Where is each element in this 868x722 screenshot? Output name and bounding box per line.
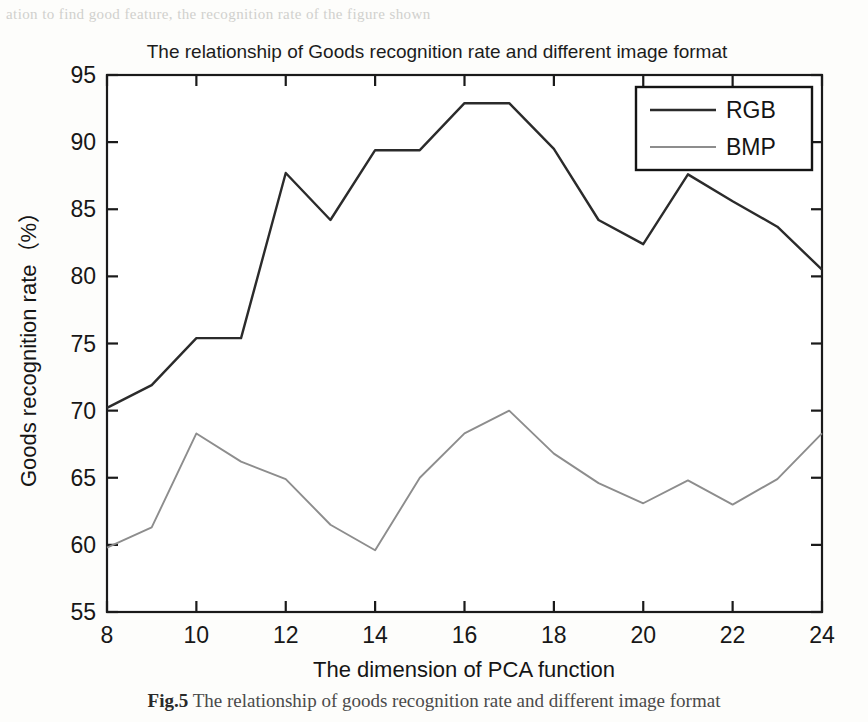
figure-caption-label: Fig.5 bbox=[148, 690, 189, 711]
x-axis-label: The dimension of PCA function bbox=[313, 657, 615, 682]
x-tick-label: 14 bbox=[362, 622, 388, 648]
line-chart: The relationship of Goods recognition ra… bbox=[0, 0, 868, 700]
figure-caption: Fig.5 The relationship of goods recognit… bbox=[0, 690, 868, 722]
chart-title: The relationship of Goods recognition ra… bbox=[147, 41, 728, 62]
legend-box bbox=[636, 87, 812, 170]
y-tick-label: 95 bbox=[70, 62, 96, 88]
x-tick-label: 12 bbox=[273, 622, 299, 648]
y-tick-label: 85 bbox=[70, 196, 96, 222]
x-tick-label: 18 bbox=[541, 622, 567, 648]
y-tick-label: 70 bbox=[70, 398, 96, 424]
y-tick-label: 75 bbox=[70, 331, 96, 357]
x-tick-label: 16 bbox=[452, 622, 478, 648]
x-tick-label: 8 bbox=[101, 622, 114, 648]
y-tick-label: 80 bbox=[70, 263, 96, 289]
figure-caption-text: The relationship of goods recognition ra… bbox=[193, 690, 721, 711]
y-tick-label: 60 bbox=[70, 532, 96, 558]
legend-label-rgb: RGB bbox=[726, 97, 776, 123]
figure-chart: The relationship of Goods recognition ra… bbox=[0, 0, 868, 700]
y-axis-label: Goods recognition rate（%） bbox=[16, 201, 41, 487]
x-axis-tick-labels: 81012141618202224 bbox=[101, 622, 835, 648]
chart-legend[interactable]: RGB BMP bbox=[636, 87, 812, 170]
x-tick-label: 24 bbox=[809, 622, 835, 648]
x-tick-label: 20 bbox=[630, 622, 656, 648]
x-tick-label: 10 bbox=[184, 622, 210, 648]
x-tick-label: 22 bbox=[720, 622, 746, 648]
legend-label-bmp: BMP bbox=[726, 134, 776, 160]
y-tick-label: 90 bbox=[70, 129, 96, 155]
y-axis-tick-labels: 556065707580859095 bbox=[70, 62, 96, 625]
y-tick-label: 55 bbox=[70, 599, 96, 625]
y-tick-label: 65 bbox=[70, 465, 96, 491]
